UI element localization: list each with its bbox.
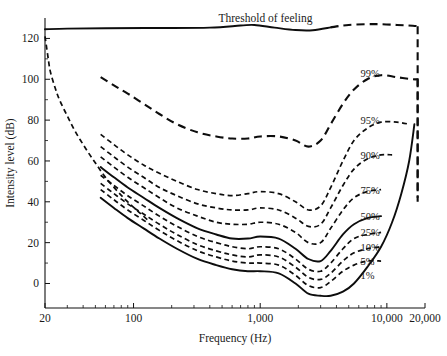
y-tick-label: 60 [28, 155, 40, 167]
series-label-95-: 95% [361, 115, 381, 126]
series-label-25-: 25% [361, 227, 381, 238]
caption-ghost [0, 345, 447, 356]
y-tick-label: 0 [33, 277, 39, 289]
chart-annotations: Threshold of feeling [219, 12, 313, 25]
x-tick-label: 20 [39, 312, 51, 324]
x-tick-label: 100 [125, 312, 143, 324]
x-tick-label: 10,000 [371, 312, 403, 325]
y-tick-label: 100 [22, 73, 40, 85]
series-labels: 99%95%90%75%50%25%10%5%1% [361, 68, 381, 281]
figure-container: 201001,00010,00020,000020406080100120 99… [0, 0, 447, 356]
x-axis-title: Frequency (Hz) [199, 332, 272, 345]
series-label-90-: 90% [361, 150, 381, 161]
series-label-1-: 1% [361, 270, 375, 281]
series-label-75-: 75% [361, 185, 381, 196]
curve-99- [101, 75, 418, 147]
curve-threshold-of-feeling-solid [45, 25, 331, 31]
x-tick-label: 20,000 [409, 312, 441, 325]
x-tick-label: 1,000 [247, 312, 273, 325]
curve-95- [101, 122, 410, 211]
y-tick-label: 80 [28, 114, 40, 126]
annotation-threshold-of-feeling: Threshold of feeling [219, 12, 313, 25]
series-label-99-: 99% [361, 68, 381, 79]
auditory-threshold-chart: 201001,00010,00020,000020406080100120 99… [0, 0, 447, 356]
series-label-50-: 50% [361, 211, 381, 222]
axis-titles: Frequency (Hz)Intensity level (dB) [4, 118, 271, 345]
y-tick-label: 120 [22, 32, 40, 44]
series-label-10-: 10% [361, 242, 381, 253]
series-label-5-: 5% [361, 256, 375, 267]
curve-threshold-of-feeling-dashed [331, 24, 418, 27]
y-tick-label: 40 [28, 196, 40, 208]
curve-low-frequency-threshold [45, 36, 148, 220]
y-axis-title: Intensity level (dB) [4, 118, 17, 208]
axes: 201001,00010,00020,000020406080100120 [22, 18, 441, 325]
y-tick-label: 20 [28, 237, 40, 249]
